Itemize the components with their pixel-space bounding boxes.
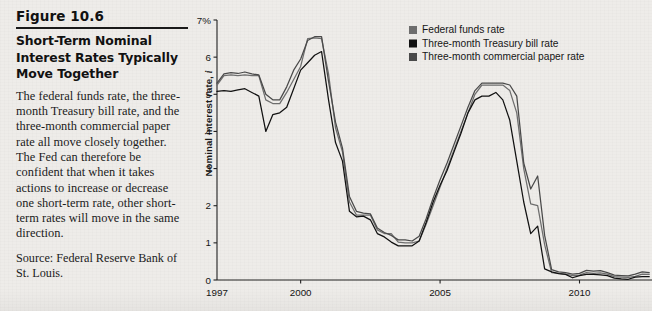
figure-title: Short-Term Nominal Interest Rates Typica… xyxy=(16,33,188,83)
legend-item[interactable]: Three-month commercial paper rate xyxy=(409,51,585,62)
legend-item[interactable]: Federal funds rate xyxy=(409,24,505,35)
line-chart-svg: 01234567%1997200020052010 Federal funds … xyxy=(186,0,652,311)
figure-description: The federal funds rate, the three-month … xyxy=(16,89,188,242)
legend-item[interactable]: Three-month Treasury bill rate xyxy=(409,38,559,49)
figure-caption-column: Figure 10.6 Short-Term Nominal Interest … xyxy=(16,8,188,281)
series-line xyxy=(217,52,649,280)
figure-divider xyxy=(16,27,188,29)
x-axis-tick-label: 1997 xyxy=(206,287,228,298)
chart-legend[interactable]: Federal funds rateThree-month Treasury b… xyxy=(409,24,585,62)
figure-page: Figure 10.6 Short-Term Nominal Interest … xyxy=(0,0,652,311)
legend-label: Three-month Treasury bill rate xyxy=(422,38,559,49)
chart-series xyxy=(217,37,649,280)
y-axis-tick-label: 1 xyxy=(206,237,211,248)
legend-label: Federal funds rate xyxy=(422,24,505,35)
y-axis-tick-label: 7% xyxy=(197,15,211,26)
series-line xyxy=(217,37,649,276)
y-axis-tick-label: 4 xyxy=(206,126,212,137)
legend-label: Three-month commercial paper rate xyxy=(422,51,585,62)
y-axis-tick-label: 2 xyxy=(206,200,211,211)
y-axis-tick-label: 0 xyxy=(206,275,212,286)
x-axis-tick-label: 2000 xyxy=(290,287,312,298)
figure-source: Source: Federal Reserve Bank of St. Loui… xyxy=(16,251,188,282)
legend-swatch xyxy=(409,26,417,34)
x-axis-tick-label: 2005 xyxy=(429,287,451,298)
chart-container: Nominal interest rate, i 01234567%199720… xyxy=(186,0,652,311)
legend-swatch xyxy=(409,53,417,61)
figure-number: Figure 10.6 xyxy=(16,8,188,25)
series-line xyxy=(217,38,649,278)
y-axis-tick-label: 5 xyxy=(206,89,212,100)
y-axis-tick-label: 3 xyxy=(206,163,212,174)
x-axis-tick-label: 2010 xyxy=(569,287,591,298)
y-axis-tick-label: 6 xyxy=(206,52,212,63)
legend-swatch xyxy=(409,40,417,48)
